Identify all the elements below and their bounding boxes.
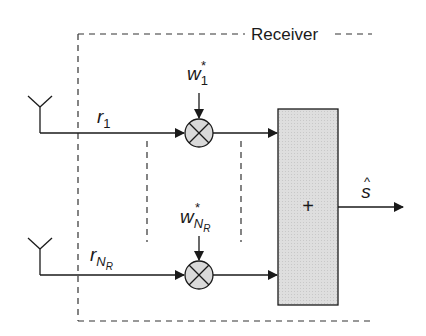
- receiver-title: Receiver: [251, 25, 318, 44]
- output-label-hat: ^: [364, 174, 371, 189]
- antenna-icon: [28, 96, 52, 133]
- antenna-icon: [28, 238, 52, 275]
- branch-NR-input-label: rNR: [90, 244, 113, 272]
- branch-1-weight-conjugate: *: [201, 58, 206, 73]
- branch-NR-weight-conjugate: *: [195, 200, 200, 215]
- combiner-symbol: +: [302, 195, 314, 217]
- branch-1-input-label: r1: [97, 106, 111, 131]
- multiplier-icon: [185, 119, 213, 147]
- multiplier-icon: [185, 261, 213, 289]
- receiver-diagram: Receiver r1 w1 * rNR wNR *: [0, 0, 426, 336]
